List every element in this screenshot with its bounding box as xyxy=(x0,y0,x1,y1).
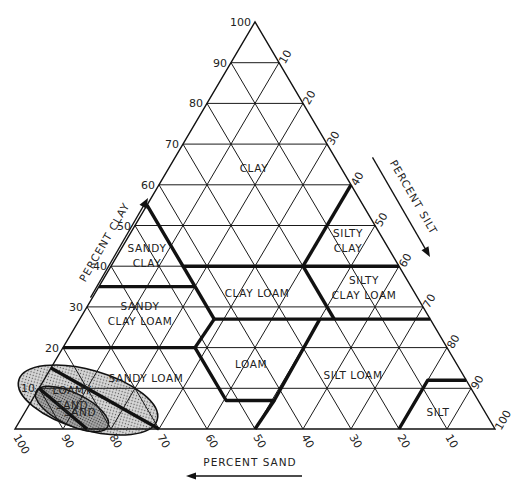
clay-tick-20: 20 xyxy=(45,342,59,355)
sand-tick-40: 40 xyxy=(298,432,316,451)
clay-tick-80: 80 xyxy=(189,97,203,110)
region-label-clay: CLAY xyxy=(240,162,269,174)
clay-tick-90: 90 xyxy=(213,57,227,70)
arrow-down-icon xyxy=(422,246,434,259)
ternary-plot: 1020304050607080901001020304050607080901… xyxy=(0,0,532,487)
clay-tick-10: 10 xyxy=(21,382,35,395)
clay-tick-60: 60 xyxy=(141,179,155,192)
sand-tick-90: 90 xyxy=(58,432,76,451)
region-label-silty-clay-loam: SILTY xyxy=(349,274,379,286)
sand-tick-50: 50 xyxy=(250,432,268,451)
sand-tick-30: 30 xyxy=(346,432,364,451)
sand-axis-title: PERCENT SAND xyxy=(186,456,302,480)
silt-axis-title: PERCENT SILT xyxy=(369,146,449,259)
silt-tick-100: 100 xyxy=(492,408,514,433)
region-label-sandy-loam: SANDY LOAM xyxy=(109,372,184,384)
sand-axis-label: PERCENT SAND xyxy=(203,456,296,468)
clay-tick-30: 30 xyxy=(69,301,83,314)
boundary-clay-loam-lower xyxy=(183,266,214,319)
region-labels: CLAYSANDYCLAYSILTYCLAYCLAY LOAMSILTYCLAY… xyxy=(52,162,449,418)
clay-tick-70: 70 xyxy=(165,138,179,151)
region-label-loamy-sand: LOAMY xyxy=(52,384,91,396)
grid-line-silt-90 xyxy=(447,388,471,429)
boundary-silty-clay-loam-left xyxy=(303,266,334,319)
region-label-loam: LOAM xyxy=(235,358,267,370)
region-label-silty-clay: SILTY xyxy=(333,227,363,239)
sand-tick-70: 70 xyxy=(154,432,172,451)
sand-tick-60: 60 xyxy=(202,432,220,451)
sand-tick-20: 20 xyxy=(394,432,412,451)
clay-tick-100: 100 xyxy=(230,16,251,29)
region-label-silty-clay-loam: CLAY LOAM xyxy=(332,289,397,301)
arrow-left-icon xyxy=(186,473,196,480)
sand-tick-100: 100 xyxy=(10,432,32,457)
region-label-silt: SILT xyxy=(427,406,450,418)
grid-line-silt-70 xyxy=(351,307,423,429)
region-label-sand: SAND xyxy=(64,406,96,418)
region-label-sandy-clay-loam: SANDY xyxy=(121,300,160,312)
region-label-sandy-clay: CLAY xyxy=(133,257,162,269)
sand-tick-10: 10 xyxy=(442,432,460,451)
region-label-clay-loam: CLAY LOAM xyxy=(225,287,290,299)
region-label-silt-loam: SILT LOAM xyxy=(323,369,382,381)
region-label-sandy-clay-loam: CLAY LOAM xyxy=(108,315,173,327)
soil-texture-triangle-chart: 1020304050607080901001020304050607080901… xyxy=(0,0,532,487)
region-label-sandy-clay: SANDY xyxy=(128,242,167,254)
boundary-silt-loam-left xyxy=(255,401,274,430)
region-label-silty-clay: CLAY xyxy=(334,242,363,254)
